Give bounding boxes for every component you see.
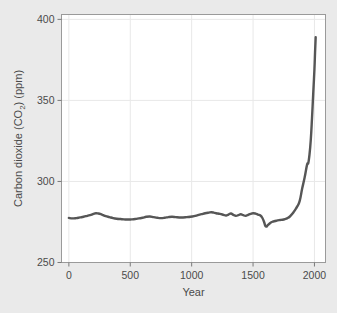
y-axis-title-part-1: Carbon dioxide (CO <box>12 109 24 207</box>
x-axis: 0500100015002000 <box>66 263 326 281</box>
y-tick-label-400: 400 <box>37 13 55 25</box>
y-tick-label-250: 250 <box>37 256 55 268</box>
x-tick-label-500: 500 <box>121 269 139 281</box>
x-tick-label-1500: 1500 <box>241 269 265 281</box>
y-tick-label-300: 300 <box>37 175 55 187</box>
chart-canvas: 0500100015002000250300350400YearCarbon d… <box>0 0 337 313</box>
x-tick-label-1000: 1000 <box>180 269 204 281</box>
y-tick-label-350: 350 <box>37 94 55 106</box>
co2-chart-figure: 0500100015002000250300350400YearCarbon d… <box>0 0 337 313</box>
y-axis: 250300350400 <box>37 13 62 268</box>
y-axis-title-part-2: ) (ppm) <box>12 70 24 105</box>
x-tick-label-2000: 2000 <box>303 269 327 281</box>
x-tick-label-0: 0 <box>66 269 72 281</box>
y-axis-title: Carbon dioxide (CO2) (ppm) <box>12 70 27 207</box>
x-axis-title: Year <box>182 286 205 298</box>
plot-background <box>62 15 326 263</box>
